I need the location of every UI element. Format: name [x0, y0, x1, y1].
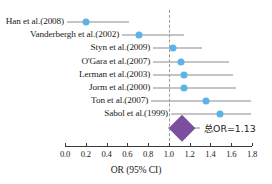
forest-row: Ton et al.(2007) [0, 95, 272, 107]
x-axis-tick-label: 0.2 [81, 149, 91, 159]
x-axis-line [65, 146, 252, 147]
forest-row: O'Gara et al.(2007) [0, 56, 272, 68]
confidence-interval-line [153, 88, 236, 89]
confidence-interval-line [151, 101, 251, 102]
forest-plot: Han et al.(2008)Vanderbergh et al.(2002)… [0, 0, 272, 184]
x-axis-tick [65, 143, 66, 146]
study-point-marker [82, 19, 89, 26]
forest-row: Jorm et al.(2000) [0, 82, 272, 94]
study-point-marker [216, 111, 223, 118]
x-axis-tick [169, 143, 170, 146]
summary-or-label: 总OR=1.13 [204, 121, 256, 135]
study-point-marker [135, 32, 142, 39]
forest-row: Vanderbergh et al.(2002) [0, 29, 272, 41]
x-axis-tick-label: 0.4 [101, 149, 111, 159]
study-label: Vanderbergh et al.(2002) [30, 31, 119, 40]
x-axis-tick [231, 143, 232, 146]
reference-line [169, 10, 170, 146]
study-label: Ton et al.(2007) [91, 97, 148, 106]
study-label: Styn et al.(2009) [91, 44, 151, 53]
forest-row: Styn et al.(2009) [0, 42, 272, 54]
study-point-marker [203, 98, 210, 105]
study-point-marker [178, 58, 185, 65]
x-axis-tick [210, 143, 211, 146]
study-label: Jorm et al.(2000) [89, 83, 150, 92]
x-axis-tick-label: 0.6 [122, 149, 132, 159]
x-axis-tick-label: 1.2 [185, 149, 195, 159]
forest-row: Lerman et al.(2003) [0, 69, 272, 81]
x-axis-tick [148, 143, 149, 146]
study-label: Han et al.(2008) [6, 17, 64, 26]
x-axis-tick [252, 143, 253, 146]
confidence-interval-line [153, 74, 233, 75]
confidence-interval-line [122, 35, 184, 36]
x-axis-tick-label: 1.8 [247, 149, 257, 159]
x-axis-tick-label: 1.0 [164, 149, 174, 159]
x-axis-tick [107, 143, 108, 146]
x-axis-tick [190, 143, 191, 146]
x-axis-tick-label: 1.4 [205, 149, 215, 159]
confidence-interval-line [153, 48, 202, 49]
study-label: Lerman et al.(2003) [79, 70, 150, 79]
x-axis-tick [86, 143, 87, 146]
summary-row: 总OR=1.13 [0, 122, 272, 134]
study-point-marker [181, 71, 188, 78]
study-label: O'Gara et al.(2007) [81, 57, 150, 66]
forest-row: Sabol et al.(1999) [0, 108, 272, 120]
x-axis-tick-label: 1.6 [226, 149, 236, 159]
study-label: Sabol et al.(1999) [104, 110, 168, 119]
x-axis-tick-label: 0.0 [60, 149, 70, 159]
forest-row: Han et al.(2008) [0, 16, 272, 28]
study-point-marker [181, 85, 188, 92]
x-axis-tick [127, 143, 128, 146]
x-axis-tick-label: 0.8 [143, 149, 153, 159]
confidence-interval-line [153, 61, 229, 62]
x-axis-title: OR (95% CI) [0, 164, 272, 175]
confidence-interval-line [67, 22, 129, 23]
study-point-marker [170, 45, 177, 52]
